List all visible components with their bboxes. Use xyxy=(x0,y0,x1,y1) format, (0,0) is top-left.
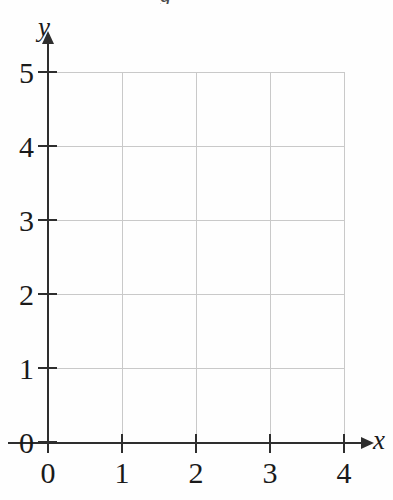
gridline-horizontal xyxy=(48,294,345,295)
gridline-horizontal xyxy=(48,72,345,73)
x-tick-label: 0 xyxy=(28,458,68,488)
y-axis-tick xyxy=(38,219,57,221)
plot-area xyxy=(48,72,345,443)
y-axis-tick xyxy=(38,145,57,147)
x-axis-tick xyxy=(121,434,123,453)
x-axis-line xyxy=(8,442,364,444)
y-axis-tick xyxy=(38,367,57,369)
gridline-vertical xyxy=(122,72,123,443)
x-tick-label: 3 xyxy=(250,458,290,488)
y-tick-label: 2 xyxy=(4,280,34,310)
coordinate-grid-figure: g 5 4 3 2 1 0 0 1 2 3 4 xyxy=(0,0,393,500)
y-axis-line xyxy=(47,40,49,445)
cutoff-text-above: g xyxy=(160,0,190,4)
y-axis-tick xyxy=(38,293,57,295)
x-axis-tick xyxy=(343,434,345,453)
y-axis-label: y xyxy=(38,14,50,41)
gridline-horizontal xyxy=(48,368,345,369)
y-axis-tick xyxy=(38,71,57,73)
gridline-vertical xyxy=(196,72,197,443)
y-tick-label: 4 xyxy=(4,132,34,162)
x-axis-tick xyxy=(195,434,197,453)
gridline-vertical xyxy=(344,72,345,443)
gridline-horizontal xyxy=(48,220,345,221)
gridline-horizontal xyxy=(48,146,345,147)
x-tick-label: 4 xyxy=(324,458,364,488)
y-tick-label: 5 xyxy=(4,58,34,88)
x-tick-label: 2 xyxy=(176,458,216,488)
y-tick-label: 0 xyxy=(4,428,34,458)
y-tick-label: 1 xyxy=(4,354,34,384)
y-tick-label: 3 xyxy=(4,206,34,236)
x-axis-tick xyxy=(47,434,49,453)
x-tick-label: 1 xyxy=(102,458,142,488)
gridline-vertical xyxy=(270,72,271,443)
x-axis-label: x xyxy=(373,427,385,454)
y-axis-tick-labels: 5 4 3 2 1 0 xyxy=(0,0,34,500)
x-axis-tick xyxy=(269,434,271,453)
